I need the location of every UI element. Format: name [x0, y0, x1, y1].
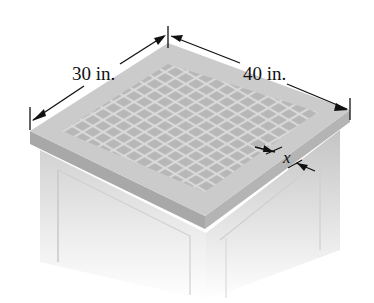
diagram-canvas: 30 in. 40 in. x: [0, 0, 374, 303]
length-label: 40 in.: [243, 63, 286, 84]
width-label: 30 in.: [72, 63, 115, 84]
tabletop-diagram: 30 in. 40 in. x: [0, 0, 374, 303]
border-label: x: [282, 148, 291, 167]
